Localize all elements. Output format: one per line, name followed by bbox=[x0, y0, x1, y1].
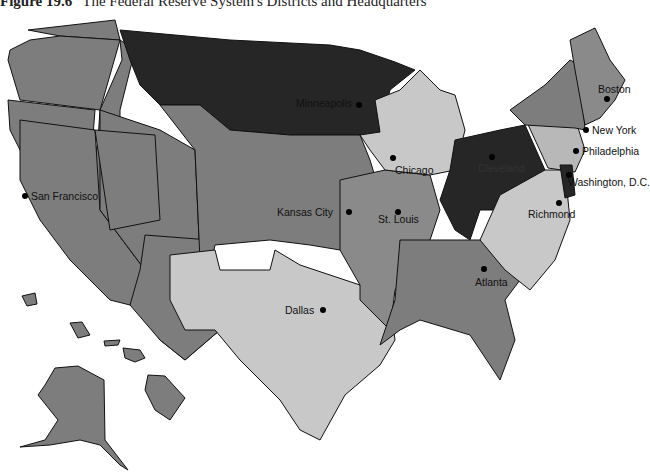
city-label-philadelphia: Philadelphia bbox=[582, 145, 639, 157]
district-new-york[interactable] bbox=[510, 60, 585, 130]
city-dot-kansas-city bbox=[346, 209, 352, 215]
city-label-atlanta: Atlanta bbox=[475, 276, 508, 288]
city-label-cleveland: Cleveland bbox=[478, 162, 525, 174]
city-dot-minneapolis bbox=[356, 102, 362, 108]
city-dot-dallas bbox=[320, 307, 326, 313]
city-dot-new-york bbox=[583, 127, 589, 133]
city-label-washington: Washington, D.C. bbox=[568, 176, 650, 188]
city-dot-san-francisco bbox=[22, 193, 28, 199]
city-label-dallas: Dallas bbox=[285, 304, 314, 316]
city-label-boston: Boston bbox=[598, 83, 631, 95]
city-label-san-francisco: San Francisco bbox=[31, 190, 98, 202]
city-label-st-louis: St. Louis bbox=[378, 213, 419, 225]
city-dot-chicago bbox=[390, 155, 396, 161]
city-label-richmond: Richmond bbox=[528, 208, 575, 220]
city-label-minneapolis: Minneapolis bbox=[296, 97, 352, 109]
city-dot-cleveland bbox=[489, 154, 495, 160]
city-label-chicago: Chicago bbox=[395, 164, 434, 176]
city-label-kansas-city: Kansas City bbox=[277, 206, 333, 218]
city-dot-richmond bbox=[556, 200, 562, 206]
city-dot-philadelphia bbox=[573, 148, 579, 154]
city-dot-atlanta bbox=[481, 266, 487, 272]
city-dot-boston bbox=[604, 96, 610, 102]
city-label-new-york: New York bbox=[592, 124, 636, 136]
district-minneapolis[interactable] bbox=[120, 30, 415, 135]
